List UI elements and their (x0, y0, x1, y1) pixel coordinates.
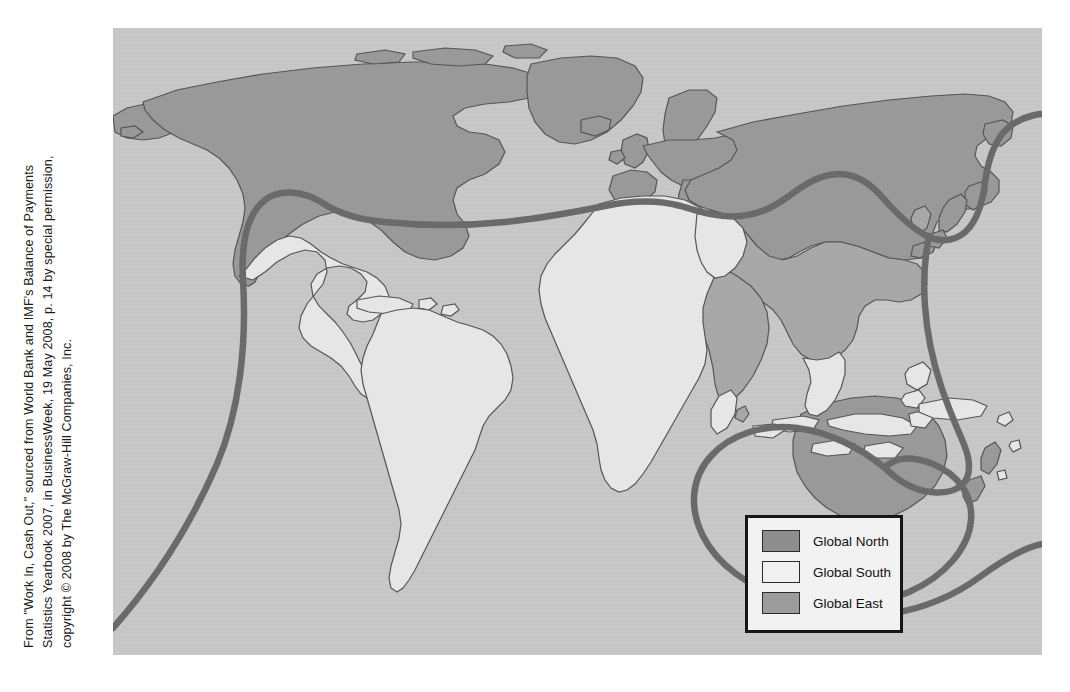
legend-item-global-east: Global East (762, 591, 883, 615)
legend-item-global-north: Global North (762, 529, 889, 553)
legend-swatch-global-north (762, 530, 800, 552)
caption-line-3: copyright © 2008 by The McGraw-Hill Comp… (61, 339, 74, 648)
legend-label-global-south: Global South (813, 565, 891, 580)
legend-label-global-east: Global East (813, 596, 883, 611)
legend-swatch-global-east (762, 592, 800, 614)
caption-line-2: Statistics Yearbook 2007, in BusinessWee… (42, 155, 55, 648)
map-legend: Global North Global South Global East (745, 515, 903, 633)
source-caption: From "Work In, Cash Out," sourced from W… (0, 0, 105, 692)
legend-item-global-south: Global South (762, 560, 891, 584)
world-map: .north{fill:#9a9a9a;} .south{fill:#e9e9e… (113, 28, 1042, 655)
legend-label-global-north: Global North (813, 534, 889, 549)
legend-swatch-global-south (762, 561, 800, 583)
caption-line-1: From "Work In, Cash Out," sourced from W… (23, 165, 36, 648)
